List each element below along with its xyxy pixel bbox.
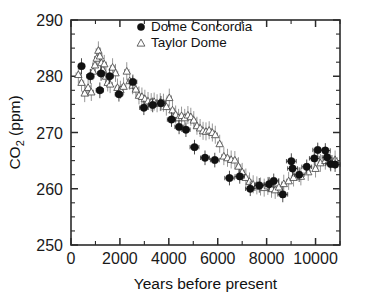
data-series-group xyxy=(75,41,340,202)
data-point-dome-concordia xyxy=(322,147,329,154)
data-point-dome-concordia xyxy=(106,73,113,80)
x-axis-title: Years before present xyxy=(134,275,278,292)
y-tick-label: 270 xyxy=(36,125,63,142)
data-point-dome-concordia xyxy=(78,62,85,69)
data-point-dome-concordia xyxy=(211,156,218,163)
data-point-taylor-dome xyxy=(123,67,130,74)
data-point-dome-concordia xyxy=(303,163,310,170)
data-point-dome-concordia xyxy=(226,174,233,181)
x-tick-label: 4000 xyxy=(151,250,187,267)
data-point-taylor-dome xyxy=(75,71,82,78)
chart-legend: Dome ConcordiaTaylor Dome xyxy=(137,19,253,50)
axes-group: 0200040006000800010000250260270280290 xyxy=(36,12,340,267)
y-axis-title-base: CO xyxy=(6,146,23,169)
x-tick-label: 6000 xyxy=(200,250,236,267)
data-point-dome-concordia xyxy=(247,185,254,192)
data-point-dome-concordia xyxy=(97,70,104,77)
data-point-dome-concordia xyxy=(157,100,164,107)
co2-ice-core-chart: 0200040006000800010000250260270280290 Do… xyxy=(0,0,367,306)
data-point-taylor-dome xyxy=(216,140,223,147)
y-tick-label: 260 xyxy=(36,181,63,198)
data-point-dome-concordia xyxy=(182,126,189,133)
data-point-dome-concordia xyxy=(236,173,243,180)
data-point-dome-concordia xyxy=(314,146,321,153)
y-tick-label: 250 xyxy=(36,237,63,254)
data-point-dome-concordia xyxy=(149,101,156,108)
data-point-taylor-dome xyxy=(91,61,98,68)
data-point-dome-concordia xyxy=(168,116,175,123)
data-point-dome-concordia xyxy=(129,78,136,85)
y-axis-title: CO2 (ppm) xyxy=(6,95,26,169)
data-point-taylor-dome xyxy=(95,47,102,54)
data-point-dome-concordia xyxy=(140,104,147,111)
x-tick-label: 8000 xyxy=(249,250,285,267)
data-point-dome-concordia xyxy=(201,154,208,161)
data-point-dome-concordia xyxy=(96,87,103,94)
data-point-dome-concordia xyxy=(295,171,302,178)
x-tick-label: 10000 xyxy=(293,250,338,267)
data-point-dome-concordia xyxy=(311,155,318,162)
legend-marker-filled-circle xyxy=(137,23,144,30)
data-point-dome-concordia xyxy=(288,157,295,164)
x-tick-label: 0 xyxy=(67,250,76,267)
data-point-taylor-dome xyxy=(235,163,242,170)
legend-label: Dome Concordia xyxy=(151,19,253,34)
data-point-dome-concordia xyxy=(289,165,296,172)
legend-marker-open-triangle xyxy=(137,39,145,46)
chart-canvas: 0200040006000800010000250260270280290 Do… xyxy=(0,0,367,306)
data-point-dome-concordia xyxy=(87,73,94,80)
legend-label: Taylor Dome xyxy=(151,35,227,50)
data-point-dome-concordia xyxy=(175,123,182,130)
y-tick-label: 280 xyxy=(36,68,63,85)
data-point-dome-concordia xyxy=(331,161,338,168)
data-point-dome-concordia xyxy=(323,154,330,161)
y-axis-title-unit: (ppm) xyxy=(6,95,23,140)
data-point-taylor-dome xyxy=(78,79,85,86)
data-point-dome-concordia xyxy=(270,177,277,184)
data-point-dome-concordia xyxy=(191,143,198,150)
data-point-dome-concordia xyxy=(256,182,263,189)
y-tick-label: 290 xyxy=(36,12,63,29)
data-point-dome-concordia xyxy=(115,91,122,98)
data-point-dome-concordia xyxy=(279,191,286,198)
data-point-taylor-dome xyxy=(166,94,173,101)
x-tick-label: 2000 xyxy=(102,250,138,267)
